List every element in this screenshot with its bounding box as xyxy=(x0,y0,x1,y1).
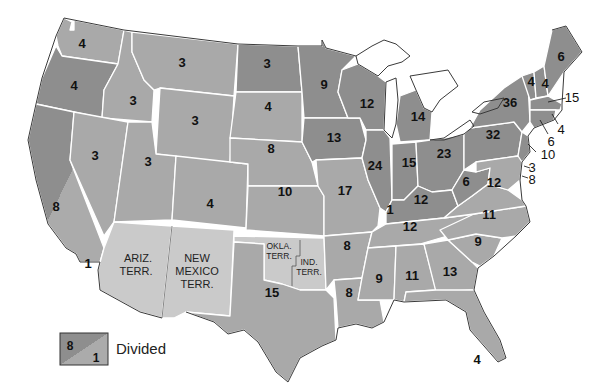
label-ariz-terr-1: ARIZ. xyxy=(124,252,152,264)
legend-swatch-top: 8 xyxy=(67,339,74,353)
label-nm-terr-1: NEW xyxy=(184,252,210,264)
label-nm-terr-2: MEXICO xyxy=(175,265,219,277)
electoral-map: 4 4 8 1 3 3 3 3 3 4 3 4 8 10 15 9 13 17 … xyxy=(0,0,591,387)
votes-virginia: 12 xyxy=(487,175,501,190)
votes-minnesota: 9 xyxy=(320,77,327,92)
label-okla-terr-1: OKLA. xyxy=(266,241,291,251)
label-ind-terr-1: IND. xyxy=(301,257,318,267)
votes-georgia: 13 xyxy=(443,264,457,279)
state-colorado xyxy=(172,156,248,228)
votes-illinois: 24 xyxy=(368,158,383,173)
votes-ohio: 23 xyxy=(437,146,451,161)
votes-california-divided: 1 xyxy=(84,256,91,271)
votes-indiana: 15 xyxy=(402,155,416,170)
votes-pennsylvania: 32 xyxy=(486,127,500,142)
callout-maryland xyxy=(522,176,528,178)
votes-alabama: 11 xyxy=(405,268,419,283)
votes-louisiana: 8 xyxy=(345,285,352,300)
votes-massachusetts: 15 xyxy=(565,90,579,105)
votes-nevada: 3 xyxy=(91,148,98,163)
votes-tennessee: 12 xyxy=(403,219,417,234)
votes-montana: 3 xyxy=(178,55,185,70)
votes-california: 8 xyxy=(52,199,59,214)
votes-wisconsin: 12 xyxy=(360,96,374,111)
votes-south-carolina: 9 xyxy=(474,234,481,249)
label-nm-terr-3: TERR. xyxy=(181,278,214,290)
votes-west-virginia: 6 xyxy=(462,174,469,189)
votes-oregon: 4 xyxy=(70,78,78,93)
votes-south-dakota: 4 xyxy=(264,99,272,114)
votes-kentucky-divided: 1 xyxy=(386,202,393,217)
votes-kentucky: 12 xyxy=(414,192,428,207)
votes-new-jersey: 10 xyxy=(541,147,555,162)
votes-north-dakota: 3 xyxy=(263,56,270,71)
votes-maine: 6 xyxy=(557,49,564,64)
legend-swatch-bottom: 1 xyxy=(93,351,100,365)
votes-arkansas: 8 xyxy=(343,238,350,253)
votes-north-carolina: 11 xyxy=(482,207,496,222)
votes-michigan: 14 xyxy=(411,109,426,124)
votes-new-york: 36 xyxy=(503,95,517,110)
legend-label: Divided xyxy=(116,340,166,357)
votes-washington: 4 xyxy=(78,36,86,51)
votes-rhode-island: 4 xyxy=(557,122,564,137)
votes-colorado: 4 xyxy=(206,196,214,211)
votes-vermont: 4 xyxy=(527,74,535,89)
votes-mississippi: 9 xyxy=(375,271,382,286)
votes-missouri: 17 xyxy=(338,183,352,198)
lake-michigan xyxy=(384,78,398,138)
votes-florida: 4 xyxy=(473,352,481,367)
votes-nebraska: 8 xyxy=(267,141,274,156)
label-ind-terr-2: TERR. xyxy=(296,267,322,277)
votes-iowa: 13 xyxy=(327,130,341,145)
legend-divided: 8 1 xyxy=(60,333,108,365)
label-okla-terr-2: TERR. xyxy=(266,251,292,261)
label-ariz-terr-2: TERR. xyxy=(120,265,153,277)
votes-idaho: 3 xyxy=(129,93,136,108)
votes-wyoming: 3 xyxy=(191,113,198,128)
votes-utah: 3 xyxy=(144,154,151,169)
votes-maryland: 8 xyxy=(528,172,535,187)
votes-kansas: 10 xyxy=(278,184,292,199)
votes-new-hampshire: 4 xyxy=(541,76,549,91)
votes-texas: 15 xyxy=(265,285,279,300)
